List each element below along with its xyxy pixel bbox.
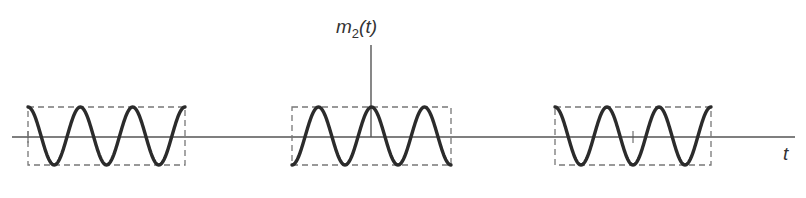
- signal-label: m2(t): [336, 16, 377, 41]
- left-pulse-envelope: [28, 107, 185, 165]
- pulse-train-diagram: m2(t) t: [0, 0, 806, 198]
- left-pulse-waveform: [28, 107, 185, 165]
- time-axis-label: t: [783, 143, 789, 164]
